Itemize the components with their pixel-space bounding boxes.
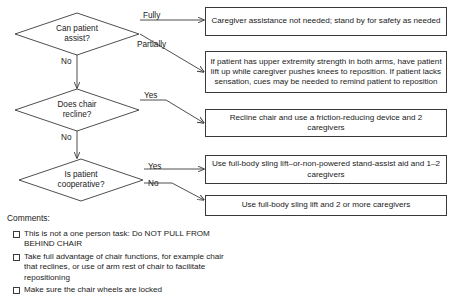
flowchart-page: Can patient assist? Does chair recline? … (0, 0, 453, 301)
outcome-box-1-text: Caregiver assistance not needed; stand b… (207, 16, 444, 26)
decision-1-label: Can patient assist? (28, 24, 126, 45)
edge-label-yes-1: Yes (144, 91, 157, 100)
edge-label-fully: Fully (143, 11, 160, 20)
outcome-box-5-text: Use full-body sling lift and 2 or more c… (238, 200, 415, 210)
outcome-box-2-text: If patient has upper extremity strength … (206, 57, 446, 88)
edge-label-partially: Partially (137, 40, 166, 49)
decision-3-line1: Is patient (64, 170, 97, 179)
decision-2-line2: recline? (63, 110, 92, 119)
decision-does-chair-recline: Does chair recline? (14, 88, 140, 132)
decision-2-label: Does chair recline? (28, 100, 126, 121)
decision-is-patient-cooperative: Is patient cooperative? (18, 158, 144, 202)
decision-1-line1: Can patient (56, 24, 98, 33)
decision-can-patient-assist: Can patient assist? (14, 12, 140, 56)
comment-item-2-text: Take full advantage of chair functions, … (24, 252, 228, 283)
outcome-box-1: Caregiver assistance not needed; stand b… (205, 7, 447, 36)
edge-label-no-1: No (61, 57, 71, 66)
decision-3-line2: cooperative? (58, 180, 105, 189)
comment-item-3-text: Make sure the chair wheels are locked (24, 285, 162, 295)
outcome-box-2: If patient has upper extremity strength … (205, 51, 447, 93)
outcome-box-4-text: Use full-body sling lift–or-non-powered … (206, 159, 446, 179)
checkbox-icon[interactable] (13, 254, 20, 261)
comments-heading: Comments: (7, 213, 50, 223)
checkbox-icon[interactable] (13, 287, 20, 294)
comment-item-1-text: This is not a one person task: Do NOT PU… (24, 229, 228, 250)
outcome-box-3-text: Recline chair and use a friction-reducin… (206, 113, 446, 133)
decision-2-line1: Does chair (57, 100, 96, 109)
checkbox-icon[interactable] (13, 231, 20, 238)
comment-item-1: This is not a one person task: Do NOT PU… (13, 229, 228, 250)
edge-label-no-3: No (148, 179, 158, 188)
outcome-box-3: Recline chair and use a friction-reducin… (205, 109, 447, 137)
decision-1-line2: assist? (64, 34, 89, 43)
outcome-box-4: Use full-body sling lift–or-non-powered … (205, 155, 447, 184)
decision-3-label: Is patient cooperative? (32, 170, 130, 191)
comment-item-3: Make sure the chair wheels are locked (13, 285, 228, 295)
comment-item-2: Take full advantage of chair functions, … (13, 252, 228, 283)
outcome-box-5: Use full-body sling lift and 2 or more c… (205, 195, 447, 216)
edge-label-yes-2: Yes (148, 162, 161, 171)
edge-label-no-2: No (61, 133, 71, 142)
